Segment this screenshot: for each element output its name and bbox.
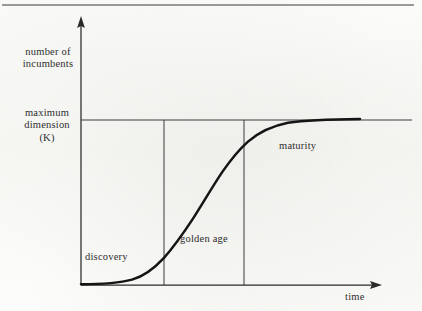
maximum-dimension-label-line-1: maximum (12, 107, 82, 119)
y-axis-label-line-2: incumbents (17, 58, 79, 70)
maximum-dimension-label-line-3: (K) (12, 132, 82, 144)
maximum-dimension-label: maximum dimension (K) (12, 107, 82, 144)
x-axis-label: time (345, 291, 365, 303)
s-curve-figure: number of incumbents maximum dimension (… (0, 0, 422, 311)
y-axis-label: number of incumbents (17, 46, 79, 71)
y-axis-label-line-1: number of (17, 46, 79, 58)
phase-label-golden-age: golden age (180, 233, 228, 245)
phase-label-discovery: discovery (85, 251, 128, 263)
phase-label-maturity: maturity (279, 140, 316, 152)
maximum-dimension-label-line-2: dimension (12, 119, 82, 131)
